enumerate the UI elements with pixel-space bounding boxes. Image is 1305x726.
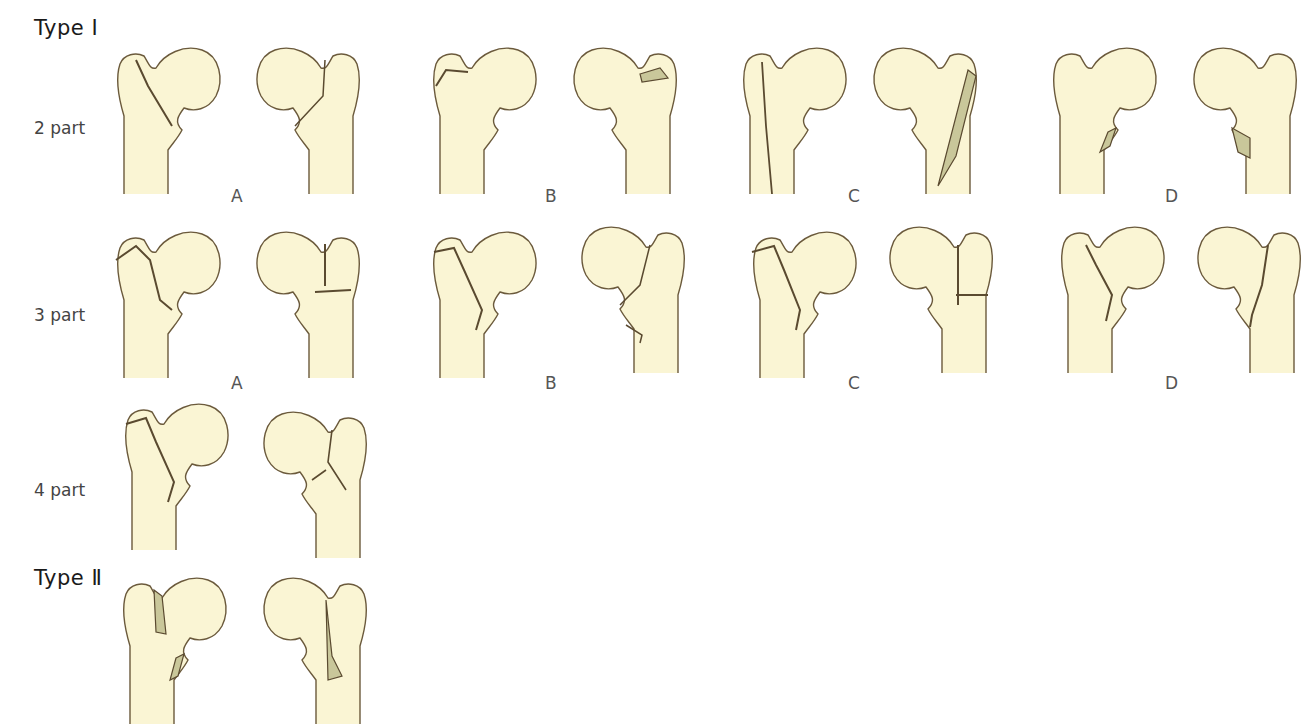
- bone-3A-front: [112, 230, 224, 380]
- bone-2C-front: [738, 46, 850, 196]
- row-label-2-part: 2 part: [34, 118, 85, 138]
- row-label-3-part: 3 part: [34, 305, 85, 325]
- letter-3B: B: [545, 373, 557, 393]
- bone-2B-back: [572, 46, 684, 196]
- bone-2D-front: [1048, 46, 1160, 196]
- bone-3C-front: [748, 230, 860, 380]
- bone-3D-back: [1196, 225, 1305, 375]
- bone-2B-front: [428, 46, 540, 196]
- bone-2C-back: [872, 46, 984, 196]
- bone-3A-back: [255, 230, 367, 380]
- bone-4-back: [262, 410, 374, 560]
- letter-2A: A: [231, 186, 243, 206]
- letter-2B: B: [545, 186, 557, 206]
- letter-3D: D: [1165, 373, 1178, 393]
- bone-type2-front: [118, 576, 230, 726]
- row-label-4-part: 4 part: [34, 480, 85, 500]
- bone-2A-back: [255, 46, 367, 196]
- bone-4-front: [120, 402, 232, 552]
- bone-type2-back: [262, 576, 374, 726]
- bone-2A-front: [112, 46, 224, 196]
- bone-3D-front: [1056, 225, 1168, 375]
- type-2-label: Type Ⅱ: [34, 566, 102, 590]
- type-1-label: Type Ⅰ: [34, 16, 98, 40]
- letter-2D: D: [1165, 186, 1178, 206]
- bone-2D-back: [1192, 46, 1304, 196]
- bone-3C-back: [888, 225, 1000, 375]
- bone-3B-front: [428, 230, 540, 380]
- bone-3B-back: [580, 225, 692, 375]
- letter-3A: A: [231, 373, 243, 393]
